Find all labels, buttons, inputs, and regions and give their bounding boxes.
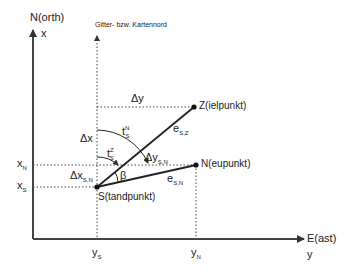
delta-y-label: Δy	[131, 93, 144, 104]
t-s-n-sub: S	[125, 133, 129, 139]
north-axis-label: N(orth)	[30, 12, 64, 23]
delta-x-label: Δx	[80, 133, 93, 144]
x-s-sub: S	[23, 187, 27, 193]
delta-x-sn-base: Δx	[70, 169, 83, 181]
delta-y-sn-base: Δy	[145, 151, 158, 163]
point-target	[191, 104, 196, 109]
y-n-label: yN	[191, 247, 201, 258]
distance-e-sn: eS,N	[167, 173, 183, 184]
delta-x-sn-sub: S,N	[83, 177, 93, 183]
y-s-sub: S	[98, 254, 102, 260]
t-s-n-sup: N	[125, 125, 129, 131]
y-s-label: yS	[92, 247, 102, 258]
e-sn-sub: S,N	[173, 180, 183, 186]
distance-e-sz: eS,Z	[173, 123, 188, 134]
grid-north-label: Gitter- bzw. Kartennord	[95, 21, 167, 28]
y-n-sub: N	[197, 254, 201, 260]
x-n-label: xN	[17, 158, 27, 169]
diagram-canvas	[0, 0, 353, 273]
x-s-label: xS	[17, 180, 27, 191]
delta-x-sn-label: ΔxS,N	[70, 170, 93, 181]
t-s-z-sup: Z	[110, 147, 114, 153]
delta-y-sn-label: ΔyS,N	[145, 152, 168, 163]
new-point-label: N(eupunkt)	[201, 159, 250, 169]
angle-beta: β	[120, 170, 126, 181]
bearing-t-s-z: tZS	[107, 148, 114, 159]
delta-y-sn-sub: S,N	[158, 159, 168, 165]
x-n-sub: N	[23, 165, 27, 171]
target-label: Z(ielpunkt)	[199, 101, 246, 111]
east-axis-label: E(ast)	[307, 233, 336, 244]
arc-beta	[115, 172, 118, 182]
e-sz-sub: S,Z	[179, 130, 188, 136]
station-label: S(tandpunkt)	[98, 192, 155, 202]
point-station	[94, 184, 99, 189]
point-new	[193, 162, 198, 167]
east-axis-symbol: y	[307, 249, 313, 260]
t-s-z-sub: S	[110, 155, 114, 161]
bearing-t-s-n: tNS	[122, 126, 129, 137]
north-axis-symbol: x	[41, 28, 47, 39]
